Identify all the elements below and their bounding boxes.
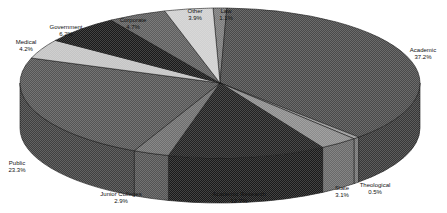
label-theological: Theological0.5% xyxy=(360,182,391,196)
label-medical: Medical4.2% xyxy=(16,39,37,53)
label-public: Public23.3% xyxy=(8,160,25,174)
label-government: Government6.2% xyxy=(49,24,82,38)
label-junior-colleges: Junior Colleges2.9% xyxy=(100,191,141,205)
label-academic-research: Academic Research12.7% xyxy=(212,191,266,205)
label-academic: Academic37.2% xyxy=(410,47,436,61)
label-corporate: Corporate4.7% xyxy=(120,17,147,31)
label-other: Other3.9% xyxy=(187,8,202,22)
label-state: State3.1% xyxy=(335,185,349,199)
label-law: Law1.1% xyxy=(219,8,233,22)
